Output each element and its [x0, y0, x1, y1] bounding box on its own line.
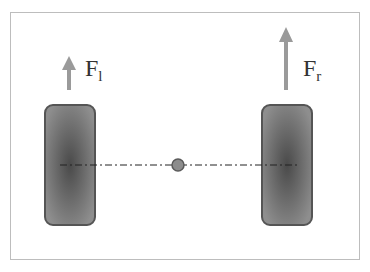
right-force-label: Fr [303, 55, 321, 85]
force-symbol: F [85, 55, 98, 81]
vehicle-axle-diagram [0, 0, 370, 272]
force-symbol: F [303, 55, 316, 81]
right-force-arrow-icon [279, 27, 293, 90]
left-force-arrow-icon [62, 56, 76, 90]
force-subscript: l [98, 68, 102, 84]
left-force-label: Fl [85, 55, 103, 85]
force-subscript: r [316, 68, 321, 84]
center-of-mass-dot [172, 159, 184, 171]
